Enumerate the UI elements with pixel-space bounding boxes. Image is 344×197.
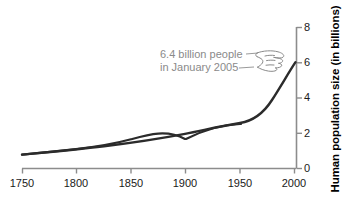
x-tick-label-1900: 1900 bbox=[165, 178, 205, 189]
population-callout: 6.4 billion people in January 2005 bbox=[160, 48, 243, 74]
y-axis-ticks bbox=[297, 28, 303, 169]
y-axis-title: Human population size (in billions) bbox=[327, 0, 343, 197]
x-tick-label-1750: 1750 bbox=[2, 178, 42, 189]
y-axis-title-text: Human population size (in billions) bbox=[329, 5, 341, 192]
y-tick-label-4: 4 bbox=[304, 92, 318, 103]
y-tick-label-0: 0 bbox=[304, 163, 318, 174]
population-growth-chart: 1750 1800 1850 1900 1950 2000 8 6 4 2 0 … bbox=[0, 0, 344, 197]
x-tick-label-1800: 1800 bbox=[56, 178, 96, 189]
y-tick-label-8: 8 bbox=[304, 22, 318, 33]
population-curve-main bbox=[22, 62, 296, 154]
x-tick-label-2000: 2000 bbox=[274, 178, 314, 189]
pointing-hand-icon bbox=[256, 51, 284, 72]
chart-canvas bbox=[0, 0, 344, 197]
y-tick-label-2: 2 bbox=[304, 128, 318, 139]
y-tick-label-6: 6 bbox=[304, 57, 318, 68]
x-tick-label-1950: 1950 bbox=[220, 178, 260, 189]
x-tick-label-1850: 1850 bbox=[111, 178, 151, 189]
callout-line-2: in January 2005 bbox=[160, 61, 243, 74]
callout-line-1: 6.4 billion people bbox=[160, 48, 243, 61]
